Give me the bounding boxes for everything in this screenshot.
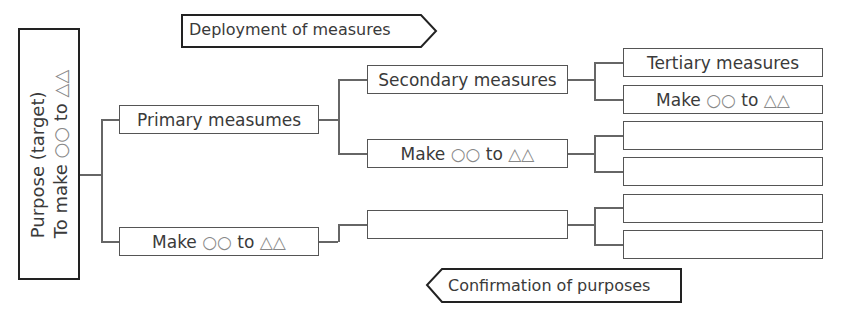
connector: [101, 241, 119, 243]
connector: [568, 153, 594, 155]
connector: [594, 99, 623, 101]
connector: [319, 119, 338, 121]
circles-symbol: ○○: [50, 127, 71, 158]
triangles-symbol: △△: [50, 70, 71, 98]
connector: [594, 207, 623, 209]
tertiary-measure-box: Make ○○ to △△: [623, 85, 823, 114]
connector: [594, 62, 596, 100]
connector: [101, 119, 103, 242]
deployment-arrow-label: Deployment of measures: [189, 20, 391, 39]
primary-measure-label: Make ○○ to △△: [152, 232, 286, 252]
purpose-goal: To make ○○ to △△: [49, 70, 72, 238]
circles-symbol: ○○: [451, 144, 481, 164]
secondary-measure-box-empty: [367, 210, 568, 239]
connector: [101, 119, 119, 121]
secondary-measure-label: Secondary measures: [378, 70, 556, 90]
connector: [594, 135, 623, 137]
triangles-symbol: △△: [508, 144, 534, 164]
connector: [338, 153, 367, 155]
circles-symbol: ○○: [202, 232, 232, 252]
purpose-title: Purpose (target): [26, 70, 49, 238]
triangles-symbol: △△: [764, 90, 790, 110]
tertiary-measure-box-empty: [623, 157, 823, 186]
purpose-goal-mid: to: [50, 97, 71, 127]
primary-measure-box: Primary measumes: [119, 105, 319, 134]
connector: [338, 79, 340, 154]
secondary-measure-box: Secondary measures: [367, 65, 568, 94]
connector: [80, 174, 101, 176]
connector: [338, 224, 340, 242]
purpose-text: Purpose (target) To make ○○ to △△: [26, 70, 72, 238]
circles-symbol: ○○: [706, 90, 736, 110]
secondary-measure-box: Make ○○ to △△: [367, 139, 568, 168]
tertiary-measure-label: Make ○○ to △△: [656, 90, 790, 110]
connector: [338, 79, 367, 81]
connector: [594, 244, 623, 246]
connector: [568, 224, 594, 226]
triangles-symbol: △△: [260, 232, 286, 252]
connector: [319, 241, 338, 243]
connector: [594, 135, 596, 172]
connector: [594, 207, 596, 245]
confirmation-arrow-label: Confirmation of purposes: [448, 276, 650, 295]
tertiary-measure-box-empty: [623, 230, 823, 259]
connector: [594, 171, 623, 173]
primary-measure-label: Primary measumes: [137, 110, 301, 130]
secondary-measure-label: Make ○○ to △△: [401, 144, 535, 164]
tertiary-measure-box-empty: [623, 194, 823, 223]
primary-measure-box: Make ○○ to △△: [119, 227, 319, 256]
tertiary-measure-box: Tertiary measures: [623, 48, 823, 77]
tertiary-measure-label: Tertiary measures: [647, 53, 799, 73]
connector: [338, 224, 367, 226]
purpose-box: Purpose (target) To make ○○ to △△: [18, 28, 80, 280]
connector: [568, 79, 594, 81]
tertiary-measure-box-empty: [623, 121, 823, 150]
connector: [594, 62, 623, 64]
purpose-goal-prefix: To make: [50, 158, 71, 238]
